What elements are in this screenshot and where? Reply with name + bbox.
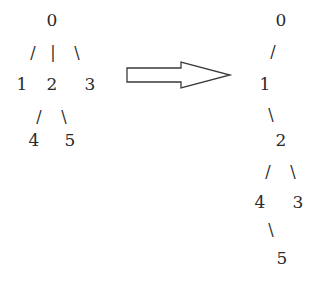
left-tree-node-4: 4 (29, 132, 40, 149)
right-tree-node-3: 3 (293, 194, 304, 211)
left-tree-node-2: 2 (47, 76, 58, 93)
right-tree-edge-2-3: \ (290, 164, 295, 180)
left-tree-node-3: 3 (85, 76, 96, 93)
right-tree-node-4: 4 (255, 194, 266, 211)
left-tree-edge-2-5: \ (61, 109, 66, 125)
left-tree-edge-2-4: / (36, 109, 41, 125)
left-tree-edge-0-1: / (30, 45, 35, 61)
right-tree-node-5: 5 (277, 250, 288, 267)
left-tree-edge-0-3: \ (74, 45, 79, 61)
left-tree-node-0: 0 (47, 12, 58, 29)
right-tree-edge-4-5: \ (268, 222, 273, 238)
right-tree-node-2: 2 (276, 132, 287, 149)
right-tree-edge-0-1: / (270, 44, 275, 60)
left-tree-node-1: 1 (17, 76, 28, 93)
left-tree-edge-0-2: | (50, 45, 55, 61)
right-tree-node-0: 0 (276, 12, 287, 29)
right-arrow-icon (124, 60, 234, 90)
left-tree-node-5: 5 (65, 132, 76, 149)
right-tree-edge-2-4: / (265, 164, 270, 180)
right-tree-node-1: 1 (260, 76, 271, 93)
right-tree-edge-1-2: \ (268, 107, 273, 123)
